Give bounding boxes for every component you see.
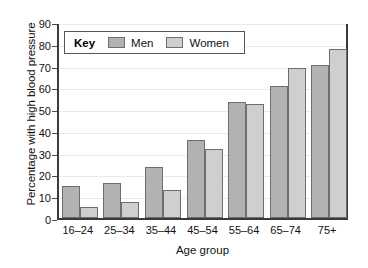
x-axis-tick-label: 25–34 <box>104 224 135 236</box>
chart-legend: Key Men Women <box>64 31 245 54</box>
legend-label-men: Men <box>131 37 153 49</box>
bar-women-6 <box>329 49 347 218</box>
bar-women-1 <box>121 202 139 218</box>
y-axis-tick-label: 20 <box>17 170 51 182</box>
y-axis-tick-label: 70 <box>17 62 51 74</box>
bar-chart: Percentage with high blood pressure 0102… <box>0 0 368 268</box>
bar-men-3 <box>187 140 205 218</box>
bar-women-3 <box>205 149 223 218</box>
bar-men-6 <box>311 65 329 218</box>
y-axis-tick-label: 40 <box>17 127 51 139</box>
x-axis-title: Age group <box>57 244 348 256</box>
y-axis-tick-label: 50 <box>17 105 51 117</box>
bar-women-5 <box>288 68 306 218</box>
bar-women-4 <box>246 104 264 218</box>
bar-women-2 <box>163 190 181 218</box>
bar-men-4 <box>228 102 246 218</box>
legend-title: Key <box>74 37 95 49</box>
legend-swatch-women <box>166 37 183 48</box>
y-axis-tick-label: 60 <box>17 83 51 95</box>
x-axis-tick-label: 16–24 <box>62 224 93 236</box>
y-axis-tick-label: 90 <box>17 18 51 30</box>
y-axis-tick-label: 30 <box>17 149 51 161</box>
y-axis-tick-label: 10 <box>17 192 51 204</box>
y-axis-tick <box>52 220 57 221</box>
legend-swatch-men <box>108 37 125 48</box>
bar-women-0 <box>80 207 98 218</box>
x-axis-tick-label: 45–54 <box>187 224 218 236</box>
x-axis-tick-label: 75+ <box>318 224 337 236</box>
bar-men-1 <box>103 183 121 218</box>
y-axis-tick-label: 0 <box>17 214 51 226</box>
bar-men-5 <box>270 86 288 218</box>
bar-group <box>270 24 306 218</box>
legend-label-women: Women <box>189 37 228 49</box>
bar-group <box>311 24 347 218</box>
x-axis-tick-label: 65–74 <box>270 224 301 236</box>
x-axis-tick-label: 55–64 <box>229 224 260 236</box>
y-axis-tick-label: 80 <box>17 40 51 52</box>
bar-men-0 <box>62 186 80 218</box>
legend-entry-men: Men <box>108 37 153 49</box>
y-axis-labels: 0102030405060708090 <box>0 0 51 268</box>
bar-men-2 <box>145 167 163 218</box>
x-axis-labels: 16–2425–3435–4445–5455–6465–7475+ <box>57 224 348 240</box>
x-axis-tick-label: 35–44 <box>146 224 177 236</box>
legend-entry-women: Women <box>166 37 228 49</box>
